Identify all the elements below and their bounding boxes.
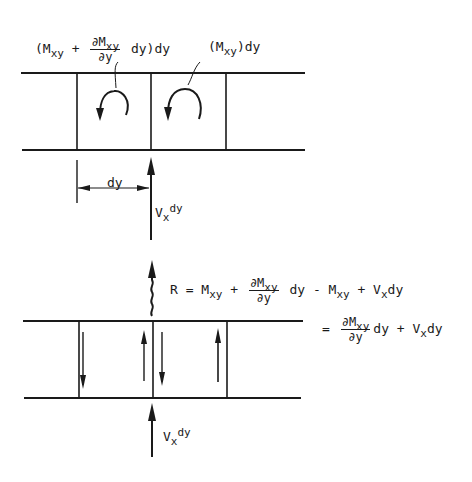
num-text: ∂M [250,276,264,290]
moment-label-right: (Mxy)dy [208,40,260,53]
resultant-equation: R = Mxy + ∂Mxy ∂y dy - Mxy + Vxdy [170,277,403,304]
shear-force-label-top: Vxdy [155,206,183,219]
label-text: (M [35,41,51,56]
moment-arrowhead-right-icon [164,107,172,121]
label-text: (M [208,39,224,54]
label-tail: dy [169,202,182,215]
fraction-numerator: ∂Mxy [341,316,371,330]
moment-arrow-right-icon [168,89,201,119]
dimension-arrowhead-left-icon [78,185,90,191]
num-subscript: xy [264,281,277,294]
partial-derivative-fraction: ∂Mxy ∂y [249,277,279,304]
eq-equals: = [322,321,330,336]
label-tail: dy)dy [131,41,170,56]
plate-element-diagram [0,0,472,482]
label-tail: dy [177,426,190,439]
eq-plus: + V [357,282,380,297]
eq-mid: dy - M [289,282,336,297]
shear-force-arrowhead-top-icon [147,157,155,175]
dimension-arrowhead-right-icon [137,185,149,191]
resultant-arrow-icon [148,260,156,316]
shear-force-arrowhead-bottom-icon [148,403,156,421]
label-subscript: xy [51,47,64,60]
num-text: ∂M [91,35,105,49]
num-text: ∂M [342,315,356,329]
fraction-numerator: ∂Mxy [249,277,279,291]
eq-subscript: x [420,327,427,340]
moment-arrow-left-icon [100,91,128,115]
eq-mid: dy + V [373,321,420,336]
shear-force-label-bottom: Vxdy [163,430,191,443]
fraction-numerator: ∂Mxy [90,36,120,50]
label-tail: )dy [237,39,260,54]
eq-tail: dy [427,321,443,336]
partial-derivative-fraction: ∂Mxy ∂y [90,36,120,63]
moment-arrowhead-left-icon [96,108,104,121]
leader-line-left [115,62,118,88]
eq-tail: dy [388,282,404,297]
partial-derivative-fraction: ∂Mxy ∂y [341,316,371,343]
num-subscript: xy [356,320,369,333]
eq-subscript: xy [336,288,349,301]
label-text: V [163,429,171,444]
num-subscript: xy [106,40,119,53]
eq-plus: + [230,282,238,297]
dimension-label: dy [107,176,123,189]
eq-subscript: xy [209,288,222,301]
label-subscript: xy [224,45,237,58]
label-plus: + [72,41,80,56]
eq-text: R = M [170,282,209,297]
label-text: V [155,205,163,220]
eq-subscript: x [381,288,388,301]
moment-label-left: (Mxy + ∂Mxy ∂y dy)dy [35,36,170,63]
resultant-equation-simplified: = ∂Mxy ∂y dy + Vxdy [322,316,443,343]
